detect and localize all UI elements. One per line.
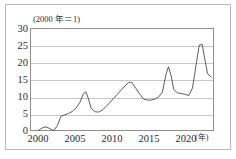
plot-area [30,28,214,131]
x-axis-unit-label: (年) [195,133,208,142]
base-year-note: (2000 年＝1) [33,14,80,24]
chart-figure: (2000 年＝1) 30 25 20 15 10 5 0 2000 2005 … [0,0,236,159]
series-line [31,29,215,132]
